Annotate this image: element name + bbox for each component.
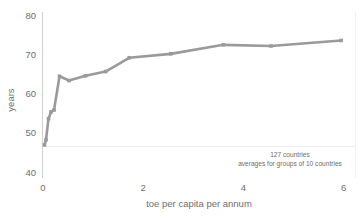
y-tick-label-50: 50	[25, 127, 36, 138]
annotation-method: averages for groups of 10 countries	[238, 160, 342, 168]
x-tick-label-4: 4	[241, 182, 246, 193]
data-point-marker	[52, 108, 56, 112]
y-axis-title: years	[5, 88, 16, 111]
x-tick-label-6: 6	[341, 182, 346, 193]
data-point-marker	[44, 138, 48, 142]
data-point-marker	[47, 117, 51, 121]
y-tick-label-70: 70	[25, 49, 36, 60]
line-chart: 80 70 60 50 40 0 2 4 6 years toe per cap…	[0, 0, 361, 220]
x-tick-label-0: 0	[40, 182, 45, 193]
data-point-marker	[339, 39, 343, 43]
annotation-country-count: 127 countries	[270, 151, 310, 158]
y-tick-label-40: 40	[25, 167, 36, 178]
x-axis-title: toe per capita per annum	[146, 198, 252, 209]
data-point-marker	[58, 74, 62, 78]
data-point-marker	[67, 79, 71, 83]
data-point-marker	[104, 70, 108, 74]
data-point-marker	[269, 44, 273, 48]
data-point-marker	[43, 143, 47, 147]
x-tick-label-2: 2	[141, 182, 146, 193]
data-point-marker	[222, 43, 226, 47]
data-point-marker	[169, 52, 173, 56]
data-point-marker	[127, 56, 131, 60]
y-tick-label-80: 80	[25, 10, 36, 21]
chart-container: 80 70 60 50 40 0 2 4 6 years toe per cap…	[0, 0, 361, 220]
y-tick-label-60: 60	[25, 88, 36, 99]
data-point-marker	[84, 74, 88, 78]
